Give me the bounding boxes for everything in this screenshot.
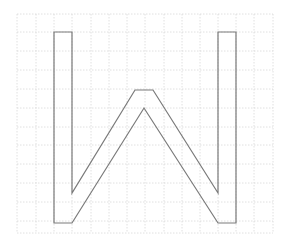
grid bbox=[17, 14, 273, 233]
w-letter-diagram bbox=[0, 0, 288, 245]
